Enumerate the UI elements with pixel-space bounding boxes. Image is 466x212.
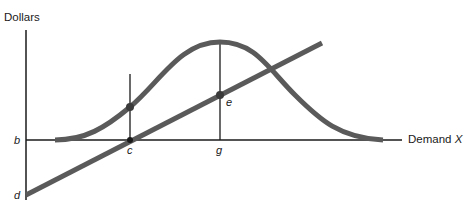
point-on-curve-at-c: [126, 103, 134, 111]
point-c: [127, 137, 133, 143]
x-axis-label: Demand X: [408, 134, 462, 146]
diagram-canvas: [0, 0, 466, 212]
label-e: e: [226, 97, 232, 108]
point-e: [216, 91, 224, 99]
x-axis-label-text: Demand: [408, 133, 455, 145]
bell-curve: [55, 42, 383, 140]
label-c: c: [127, 145, 133, 156]
label-g: g: [216, 145, 222, 156]
label-b: b: [14, 135, 20, 146]
label-d: d: [14, 190, 20, 201]
economics-diagram: Dollars Demand X b c d e g: [0, 0, 466, 212]
y-axis-label: Dollars: [4, 12, 40, 24]
x-axis-label-var: X: [455, 133, 463, 145]
